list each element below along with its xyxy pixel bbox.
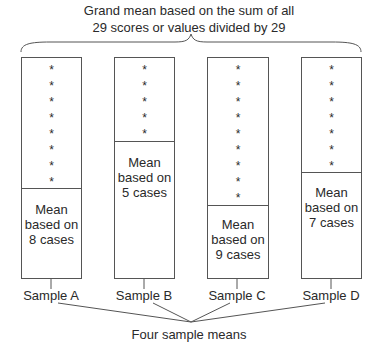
case-stars: * * * * * * * [302, 62, 361, 174]
sample-label-a: Sample A [6, 288, 96, 303]
case-star-icon: * [22, 110, 81, 126]
case-star-icon: * [22, 78, 81, 94]
sample-label-d: Sample D [286, 288, 376, 303]
case-star-icon: * [115, 126, 174, 142]
mean-label: Mean based on 8 cases [22, 202, 81, 247]
case-star-icon: * [208, 126, 268, 142]
sample-box-c: * * * * * * * * * Mean based on 9 cases [207, 57, 269, 279]
case-star-icon: * [208, 190, 268, 206]
case-star-icon: * [208, 174, 268, 190]
sample-box-d: * * * * * * * Mean based on 7 cases [301, 57, 362, 279]
case-star-icon: * [22, 158, 81, 174]
case-star-icon: * [115, 94, 174, 110]
case-star-icon: * [22, 126, 81, 142]
mean-divider [208, 205, 268, 206]
case-stars: * * * * * * * * * [208, 62, 268, 206]
sample-label-c: Sample C [192, 288, 282, 303]
case-star-icon: * [302, 110, 361, 126]
case-star-icon: * [115, 78, 174, 94]
case-star-icon: * [208, 158, 268, 174]
case-star-icon: * [208, 78, 268, 94]
four-sample-means-label: Four sample means [0, 327, 378, 342]
case-star-icon: * [208, 142, 268, 158]
case-star-icon: * [208, 110, 268, 126]
case-star-icon: * [22, 94, 81, 110]
case-star-icon: * [115, 110, 174, 126]
sample-box-a: * * * * * * * * Mean based on 8 cases [21, 57, 82, 279]
case-star-icon: * [208, 94, 268, 110]
case-star-icon: * [115, 62, 174, 78]
case-star-icon: * [302, 142, 361, 158]
sample-box-b: * * * * * Mean based on 5 cases [114, 57, 175, 279]
case-star-icon: * [302, 94, 361, 110]
case-star-icon: * [302, 78, 361, 94]
case-star-icon: * [302, 126, 361, 142]
case-star-icon: * [208, 62, 268, 78]
case-stars: * * * * * * * * [22, 62, 81, 190]
mean-divider [22, 188, 81, 189]
grand-mean-brace [21, 34, 361, 52]
mean-label: Mean based on 7 cases [302, 185, 361, 230]
mean-label: Mean based on 5 cases [115, 155, 174, 200]
case-star-icon: * [302, 62, 361, 78]
mean-divider [302, 172, 361, 173]
mean-label: Mean based on 9 cases [208, 217, 268, 262]
case-star-icon: * [22, 62, 81, 78]
sample-label-b: Sample B [99, 288, 189, 303]
case-star-icon: * [22, 142, 81, 158]
case-stars: * * * * * [115, 62, 174, 142]
mean-divider [115, 141, 174, 142]
